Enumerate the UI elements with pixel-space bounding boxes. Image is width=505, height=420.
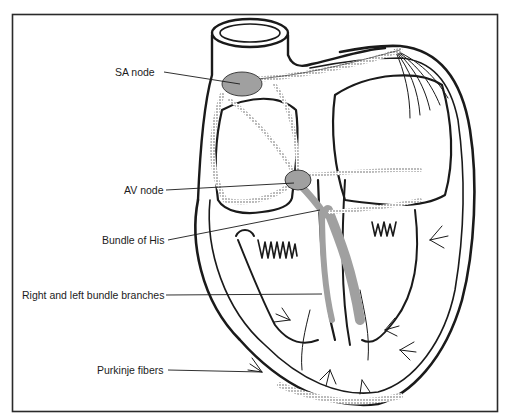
internodal-pathway-mid (230, 100, 295, 175)
bachmann-bundle (300, 170, 420, 175)
label-purkinje-fibers: Purkinje fibers (97, 364, 164, 376)
label-bundle-branches: Right and left bundle branches (22, 289, 164, 301)
heart-illustration (0, 0, 505, 420)
label-av-node: AV node (124, 184, 164, 196)
conduction-diagram: SA node AV node Bundle of His Right and … (0, 0, 505, 420)
sa-node (222, 72, 262, 96)
leader-lines (164, 72, 322, 372)
label-sa-node: SA node (115, 66, 155, 78)
left-atrium (333, 75, 451, 205)
label-bundle-of-his: Bundle of His (102, 234, 164, 246)
av-node (285, 170, 311, 190)
left-ventricle (362, 210, 417, 342)
